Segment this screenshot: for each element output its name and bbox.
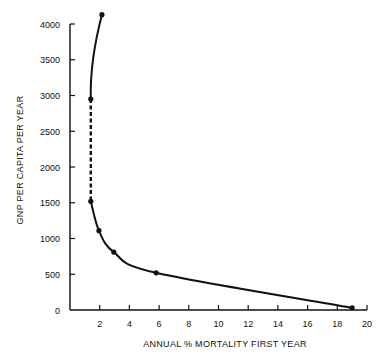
x-axis-label: ANNUAL % MORTALITY FIRST YEAR	[143, 339, 307, 349]
curve	[91, 15, 352, 308]
y-axis-label: GNP PER CAPITA PER YEAR	[15, 95, 25, 224]
y-tick-label: 500	[45, 270, 60, 280]
data-point	[154, 270, 159, 275]
y-tick-label: 2000	[40, 163, 60, 173]
curve-segment	[91, 15, 102, 99]
y-tick-label: 3500	[40, 55, 60, 65]
x-tick-label: 20	[362, 319, 372, 329]
data-points	[88, 12, 355, 310]
x-tick-label: 6	[157, 319, 162, 329]
data-point	[350, 305, 355, 310]
x-tick-label: 12	[243, 319, 253, 329]
data-point	[88, 199, 93, 204]
data-point	[99, 12, 104, 17]
data-point	[88, 96, 93, 101]
y-tick-label: 1500	[40, 198, 60, 208]
data-point	[96, 228, 101, 233]
curve-segment	[91, 201, 352, 308]
data-point	[111, 249, 116, 254]
x-tick-label: 4	[127, 319, 132, 329]
x-tick-label: 16	[303, 319, 313, 329]
chart: 05001000150020002500300035004000 2468101…	[0, 0, 382, 359]
x-tick-label: 2	[97, 319, 102, 329]
y-tick-label: 1000	[40, 234, 60, 244]
x-tick-label: 14	[273, 319, 283, 329]
x-tick-label: 18	[332, 319, 342, 329]
y-tick-label: 3000	[40, 91, 60, 101]
y-axis: 05001000150020002500300035004000	[40, 20, 75, 316]
x-axis: 2468101214161820	[70, 305, 372, 329]
y-tick-label: 0	[55, 306, 60, 316]
y-tick-label: 2500	[40, 127, 60, 137]
x-tick-label: 8	[186, 319, 191, 329]
y-tick-label: 4000	[40, 20, 60, 30]
x-tick-label: 10	[213, 319, 223, 329]
